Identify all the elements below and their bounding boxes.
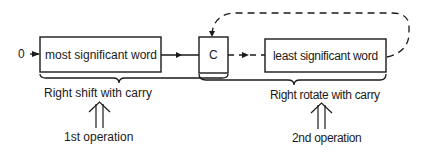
right-rotate-with-carry-label: Right rotate with carry — [270, 88, 380, 102]
msw-label: most significant word — [45, 48, 157, 62]
feedback-arrowhead — [209, 31, 215, 37]
input-zero-label: 0 — [18, 47, 25, 61]
carry-label: C — [209, 48, 218, 62]
carry-to-lsw-arrowhead — [242, 52, 249, 58]
lsw-label: least significant word — [273, 49, 378, 63]
first-operation-double-arrow-icon — [89, 102, 110, 128]
second-operation-double-arrow-icon — [311, 103, 332, 129]
right-shift-with-carry-label: Right shift with carry — [44, 86, 152, 100]
first-operation-label: 1st operation — [64, 130, 133, 144]
second-operation-label: 2nd operation — [292, 131, 362, 145]
msw-to-carry-arrowhead — [176, 52, 182, 58]
